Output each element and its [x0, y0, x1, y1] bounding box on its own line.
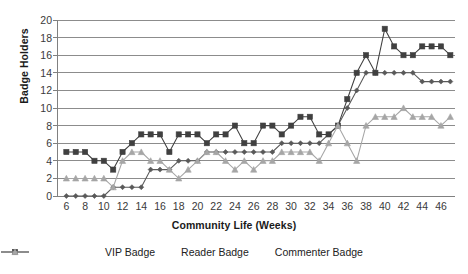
square-marker-icon: [139, 132, 144, 137]
diamond-marker-icon: [345, 106, 350, 111]
square-marker-icon: [298, 114, 303, 119]
series-line-1: [66, 29, 450, 170]
diamond-marker-icon: [429, 79, 434, 84]
series-line-2: [66, 108, 450, 187]
square-marker-icon: [401, 53, 406, 58]
square-marker-icon: [326, 132, 331, 137]
square-marker-icon: [176, 132, 181, 137]
diamond-marker-icon: [64, 194, 69, 199]
square-marker-icon: [251, 141, 256, 146]
square-marker-icon: [345, 97, 350, 102]
square-marker-icon: [410, 53, 415, 58]
square-marker-icon: [289, 123, 294, 128]
square-marker-icon: [148, 132, 153, 137]
x-tick-label-46: 46: [426, 200, 456, 212]
legend-marker-triangle-marker-icon: [0, 246, 30, 258]
square-marker-icon: [270, 123, 275, 128]
diamond-marker-icon: [364, 70, 369, 75]
diamond-marker-icon: [382, 70, 387, 75]
diamond-marker-icon: [186, 158, 191, 163]
legend-label: Commenter Badge: [275, 246, 363, 258]
diamond-marker-icon: [261, 150, 266, 155]
diamond-marker-icon: [251, 150, 256, 155]
diamond-marker-icon: [139, 185, 144, 190]
legend-item-commenter-badge[interactable]: Commenter Badge: [275, 246, 363, 258]
legend-item-vip-badge[interactable]: VIP Badge: [105, 246, 155, 258]
plot-area: [0, 0, 468, 274]
square-marker-icon: [373, 70, 378, 75]
square-marker-icon: [392, 44, 397, 49]
legend-label: Reader Badge: [181, 246, 249, 258]
square-marker-icon: [363, 53, 368, 58]
square-marker-icon: [195, 132, 200, 137]
legend-item-reader-badge[interactable]: Reader Badge: [181, 246, 249, 258]
square-marker-icon: [242, 141, 247, 146]
square-marker-icon: [420, 44, 425, 49]
square-marker-icon: [307, 114, 312, 119]
diamond-marker-icon: [120, 185, 125, 190]
square-marker-icon: [448, 53, 453, 58]
diamond-marker-icon: [448, 79, 453, 84]
diamond-marker-icon: [401, 70, 406, 75]
diamond-marker-icon: [232, 150, 237, 155]
diamond-marker-icon: [73, 194, 78, 199]
square-marker-icon: [438, 44, 443, 49]
square-marker-icon: [129, 141, 134, 146]
square-marker-icon: [120, 149, 125, 154]
diamond-marker-icon: [438, 79, 443, 84]
square-marker-icon: [214, 132, 219, 137]
x-axis-title: Community Life (Weeks): [0, 219, 468, 231]
legend-label: VIP Badge: [105, 246, 155, 258]
square-marker-icon: [186, 132, 191, 137]
square-marker-icon: [354, 70, 359, 75]
diamond-marker-icon: [83, 194, 88, 199]
diamond-marker-icon: [307, 141, 312, 146]
diamond-marker-icon: [148, 167, 153, 172]
square-marker-icon: [279, 132, 284, 137]
x-axis-tick-labels: 6810121416182022242628303234363840424446: [0, 200, 468, 216]
series-commenter-badge: [63, 105, 453, 190]
diamond-marker-icon: [223, 150, 228, 155]
diamond-marker-icon: [298, 141, 303, 146]
square-marker-icon: [382, 26, 387, 31]
square-marker-icon: [429, 44, 434, 49]
square-marker-icon: [317, 132, 322, 137]
square-marker-icon: [167, 149, 172, 154]
square-marker-icon: [64, 149, 69, 154]
diamond-marker-icon: [354, 88, 359, 93]
square-marker-icon: [73, 149, 78, 154]
square-marker-icon: [260, 123, 265, 128]
square-marker-icon: [232, 123, 237, 128]
triangle-marker-icon: [447, 114, 453, 120]
square-marker-icon: [101, 158, 106, 163]
square-marker-icon: [204, 141, 209, 146]
square-marker-icon: [92, 158, 97, 163]
series-reader-badge: [64, 26, 453, 172]
diamond-marker-icon: [129, 185, 134, 190]
diamond-marker-icon: [392, 70, 397, 75]
diamond-marker-icon: [289, 141, 294, 146]
chart-legend: VIP BadgeReader BadgeCommenter Badge: [0, 246, 468, 258]
square-marker-icon: [157, 132, 162, 137]
diamond-marker-icon: [242, 150, 247, 155]
badge-holders-line-chart: Badge Holders 20181614121086420 68101214…: [0, 0, 468, 274]
square-marker-icon: [82, 149, 87, 154]
square-marker-icon: [111, 167, 116, 172]
diamond-marker-icon: [158, 167, 163, 172]
diamond-marker-icon: [92, 194, 97, 199]
square-marker-icon: [223, 132, 228, 137]
